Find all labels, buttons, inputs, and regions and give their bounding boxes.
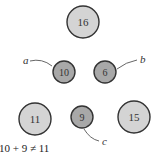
node-11: 11 [19, 103, 51, 135]
node-6: 6 [94, 61, 116, 83]
node-11-label: 11 [30, 113, 41, 125]
node-10: 10 [53, 61, 75, 83]
node-16: 16 [67, 6, 99, 38]
node-9: 9 [71, 106, 93, 128]
node-6-label: 6 [103, 67, 108, 78]
inequality-equation: 10 + 9 ≠ 11 [0, 142, 49, 154]
node-10-label: 10 [59, 67, 69, 78]
connector-c [84, 129, 99, 141]
node-15: 15 [118, 101, 150, 133]
node-9-label: 9 [80, 112, 85, 123]
connector-b [117, 60, 137, 69]
label-a: a [23, 54, 29, 66]
label-c: c [102, 135, 107, 147]
node-15-label: 15 [129, 111, 141, 123]
node-16-label: 16 [78, 16, 90, 28]
connector-a [30, 60, 52, 66]
circle-number-diagram: 16 10 6 11 9 15 a b c 10 + 9 ≠ 11 [0, 0, 157, 158]
label-b: b [140, 53, 146, 65]
